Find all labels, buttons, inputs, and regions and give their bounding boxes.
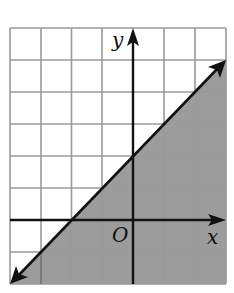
inequality-graph: y O x (0, 0, 234, 293)
x-axis-label: x (207, 225, 218, 249)
origin-label: O (112, 223, 128, 247)
y-axis-label: y (111, 28, 124, 52)
